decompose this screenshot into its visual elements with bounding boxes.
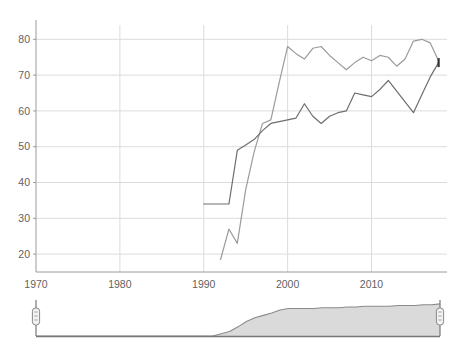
y-axis-tick-label: 70 bbox=[18, 69, 30, 81]
slider-handle-right[interactable] bbox=[436, 308, 443, 325]
chart-page: 2030405060708019701980199020002010 bbox=[0, 0, 454, 359]
slider-overview-area bbox=[36, 304, 440, 336]
y-axis-tick-label: 60 bbox=[18, 105, 30, 117]
range-slider[interactable] bbox=[0, 296, 454, 359]
x-axis-tick-label: 1990 bbox=[192, 278, 216, 290]
slider-handle-left[interactable] bbox=[32, 308, 39, 325]
y-axis-tick-label: 40 bbox=[18, 176, 30, 188]
x-axis-tick-label: 1980 bbox=[108, 278, 132, 290]
y-axis-tick-label: 30 bbox=[18, 212, 30, 224]
x-axis-tick-label: 2010 bbox=[360, 278, 384, 290]
x-axis-tick-label: 2000 bbox=[276, 278, 300, 290]
main-chart-panel[interactable]: 2030405060708019701980199020002010 bbox=[0, 0, 454, 300]
x-axis-tick-label: 1970 bbox=[24, 278, 48, 290]
data-series-line[interactable] bbox=[221, 39, 439, 259]
y-axis-tick-label: 50 bbox=[18, 140, 30, 152]
range-slider-panel[interactable] bbox=[0, 296, 454, 359]
line-chart[interactable]: 2030405060708019701980199020002010 bbox=[0, 0, 454, 300]
y-axis-tick-label: 80 bbox=[18, 33, 30, 45]
y-axis-tick-label: 20 bbox=[18, 248, 30, 260]
